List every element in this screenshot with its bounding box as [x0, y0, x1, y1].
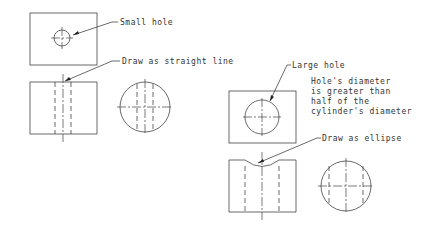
label-small-hole: Small hole — [120, 18, 173, 27]
svg-text:is greater than: is greater than — [311, 87, 391, 96]
left-front-view — [30, 74, 97, 142]
left-top-view — [30, 13, 97, 65]
svg-text:Hole's diameter: Hole's diameter — [311, 77, 391, 86]
label-ellipse: Draw as ellipse — [322, 134, 402, 143]
label-straight-line: Draw as straight line — [122, 57, 234, 66]
leader-straight-line — [65, 61, 120, 81]
svg-text:half of the: half of the — [311, 97, 369, 106]
label-large-hole: Large hole — [292, 61, 345, 70]
left-side-view — [117, 79, 173, 135]
right-side-view — [318, 158, 374, 214]
right-top-view — [229, 91, 296, 143]
projection-drawing: Small hole Draw as straight line Large h… — [0, 0, 434, 244]
leader-large-hole — [270, 65, 291, 101]
leader-ellipse — [258, 138, 321, 163]
note-hole-diameter: Hole's diameter is greater than half of … — [311, 77, 412, 116]
svg-text:cylinder's diameter: cylinder's diameter — [311, 107, 412, 116]
leader-small-hole — [73, 22, 118, 35]
